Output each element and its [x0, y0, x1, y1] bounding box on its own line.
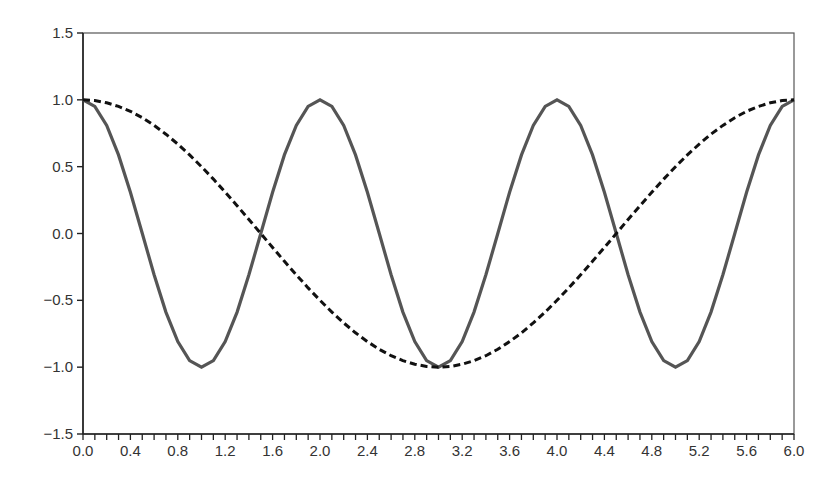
x-tick-label: 2.4 — [357, 442, 378, 459]
y-tick-label: 0.0 — [52, 225, 73, 242]
x-tick-label: 1.2 — [215, 442, 236, 459]
x-tick-label: 4.8 — [641, 442, 662, 459]
x-tick-label: 3.6 — [499, 442, 520, 459]
x-tick-label: 5.2 — [689, 442, 710, 459]
x-tick-label: 3.2 — [452, 442, 473, 459]
x-tick-label: 5.6 — [736, 442, 757, 459]
y-tick-label: 1.0 — [52, 91, 73, 108]
x-tick-label: 2.8 — [404, 442, 425, 459]
x-tick-label: 2.0 — [310, 442, 331, 459]
x-tick-label: 0.8 — [167, 442, 188, 459]
x-tick-label: 6.0 — [784, 442, 805, 459]
x-tick-label: 0.0 — [73, 442, 94, 459]
plot-frame — [83, 33, 794, 434]
y-tick-label: −1.0 — [43, 358, 73, 375]
y-tick-label: −0.5 — [43, 291, 73, 308]
y-tick-label: 0.5 — [52, 158, 73, 175]
y-axis-ticks: −1.5−1.0−0.50.00.51.01.5 — [43, 24, 83, 442]
x-tick-label: 4.4 — [594, 442, 615, 459]
x-tick-label: 4.0 — [547, 442, 568, 459]
x-tick-label: 0.4 — [120, 442, 141, 459]
x-tick-label: 1.6 — [262, 442, 283, 459]
y-tick-label: 1.5 — [52, 24, 73, 41]
y-tick-label: −1.5 — [43, 425, 73, 442]
x-axis-ticks: 0.00.40.81.21.62.02.42.83.23.64.04.44.85… — [73, 434, 805, 459]
line-chart: −1.5−1.0−0.50.00.51.01.5 0.00.40.81.21.6… — [0, 0, 827, 489]
